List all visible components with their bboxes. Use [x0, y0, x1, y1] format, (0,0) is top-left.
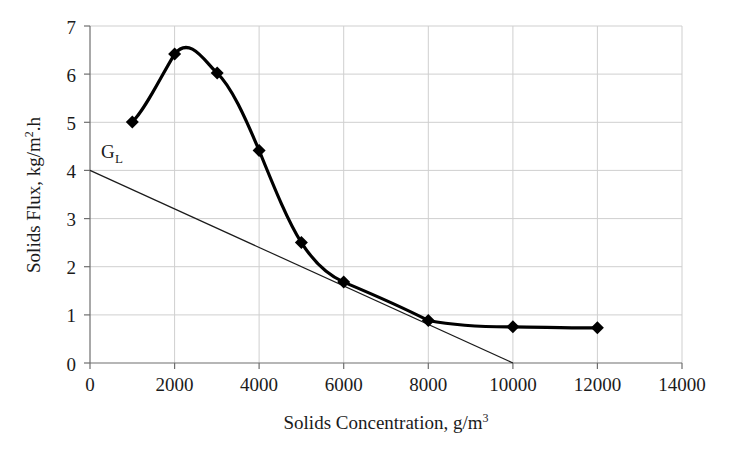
ytick-label-6: 6 — [67, 65, 77, 86]
y-axis-title-main: Solids Flux, kg/m — [23, 137, 44, 273]
xtick-label-14000: 14000 — [658, 374, 706, 395]
ytick-label-3: 3 — [67, 209, 77, 230]
xtick-label-0: 0 — [85, 374, 95, 395]
xtick-label-4000: 4000 — [240, 374, 278, 395]
solids-flux-chart: 7 6 5 4 3 2 1 0 0 2000 4000 6000 8000 10… — [0, 0, 735, 454]
y-axis-title-tail: .h — [23, 117, 44, 132]
y-axis-ticks — [84, 26, 90, 363]
xtick-label-12000: 12000 — [574, 374, 622, 395]
x-axis-title: Solids Concentration, g/m3 — [284, 411, 489, 433]
xtick-label-6000: 6000 — [325, 374, 363, 395]
y-axis-title: Solids Flux, kg/m2.h — [22, 117, 44, 273]
ytick-label-2: 2 — [67, 257, 77, 278]
xtick-label-2000: 2000 — [156, 374, 194, 395]
y-axis-tick-labels: 7 6 5 4 3 2 1 0 — [67, 17, 77, 375]
ytick-label-1: 1 — [67, 305, 77, 326]
ytick-label-7: 7 — [67, 17, 77, 38]
ytick-label-4: 4 — [67, 161, 77, 182]
x-axis-tick-labels: 0 2000 4000 6000 8000 10000 12000 14000 — [85, 374, 706, 395]
x-axis-ticks — [90, 363, 682, 369]
xtick-label-10000: 10000 — [489, 374, 537, 395]
xtick-label-8000: 8000 — [409, 374, 447, 395]
ytick-label-0: 0 — [67, 354, 77, 375]
plot-area-background — [90, 26, 682, 363]
x-axis-title-main: Solids Concentration, g/m — [284, 412, 483, 433]
chart-figure: 7 6 5 4 3 2 1 0 0 2000 4000 6000 8000 10… — [0, 0, 735, 454]
ytick-label-5: 5 — [67, 113, 77, 134]
x-axis-title-superscript: 3 — [482, 411, 488, 425]
gl-annotation-subscript: L — [115, 151, 123, 166]
gl-annotation-label: G — [101, 141, 115, 162]
